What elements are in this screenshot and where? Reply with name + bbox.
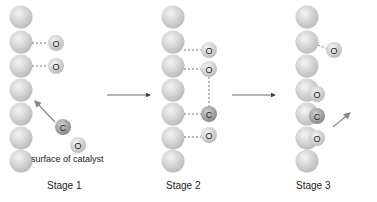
svg-text:O: O bbox=[313, 134, 320, 144]
svg-text:O: O bbox=[313, 90, 320, 100]
svg-text:C: C bbox=[206, 110, 213, 120]
catalyst-atom bbox=[162, 103, 185, 126]
catalyst-atom bbox=[296, 150, 319, 173]
catalyst-atom bbox=[296, 55, 319, 78]
catalyst-atom bbox=[10, 103, 33, 126]
catalyst-atom bbox=[10, 31, 33, 54]
catalyst-atom bbox=[162, 31, 185, 54]
svg-text:C: C bbox=[314, 112, 321, 122]
diagram-svg: OOCOOOCOOOCO bbox=[0, 0, 377, 202]
svg-text:C: C bbox=[60, 123, 67, 133]
svg-text:O: O bbox=[74, 141, 81, 151]
stage-2-label: Stage 2 bbox=[166, 180, 200, 191]
catalyst-atom bbox=[296, 31, 319, 54]
catalyst-atom bbox=[10, 79, 33, 102]
surface-label: surface of catalyst bbox=[31, 154, 104, 164]
catalyst-atom bbox=[162, 127, 185, 150]
svg-text:O: O bbox=[330, 46, 337, 56]
stage-1-label: Stage 1 bbox=[47, 180, 81, 191]
catalyst-atom bbox=[10, 150, 33, 173]
approach-arrow bbox=[35, 101, 55, 122]
stage-3-label: Stage 3 bbox=[296, 180, 330, 191]
catalyst-atom bbox=[10, 6, 33, 29]
leave-arrow bbox=[333, 113, 350, 127]
svg-text:O: O bbox=[52, 39, 59, 49]
svg-text:O: O bbox=[52, 62, 59, 72]
svg-text:O: O bbox=[205, 131, 212, 141]
catalyst-atom bbox=[162, 150, 185, 173]
catalyst-diagram: OOCOOOCOOOCO surface of catalyst Stage 1… bbox=[0, 0, 377, 202]
svg-text:O: O bbox=[205, 65, 212, 75]
catalyst-atom bbox=[162, 55, 185, 78]
catalyst-atom bbox=[162, 6, 185, 29]
svg-text:O: O bbox=[205, 46, 212, 56]
catalyst-atom bbox=[10, 127, 33, 150]
catalyst-atom bbox=[10, 55, 33, 78]
catalyst-atom bbox=[162, 79, 185, 102]
catalyst-atom bbox=[296, 6, 319, 29]
